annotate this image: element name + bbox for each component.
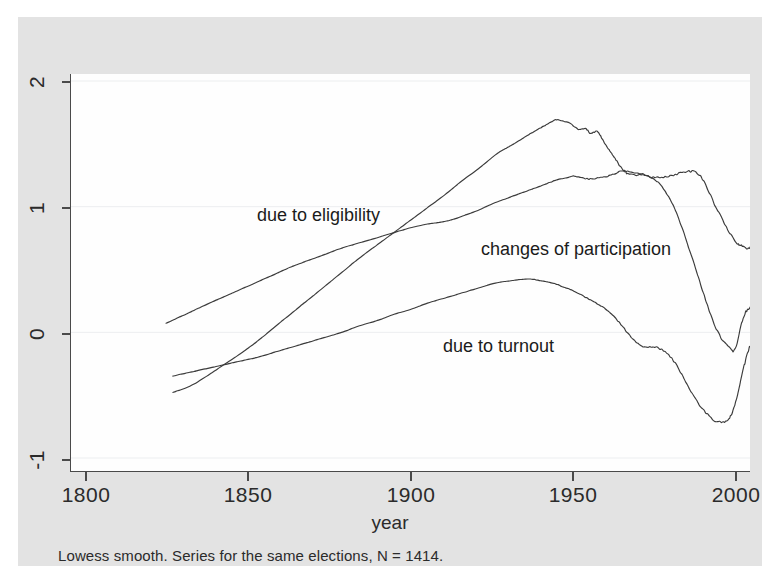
x-tick-label-2000: 2000	[696, 483, 776, 507]
x-tickmark-1900	[410, 472, 412, 481]
x-tickmark-1850	[247, 472, 249, 481]
series-label-turnout: due to turnout	[443, 336, 554, 357]
x-tickmark-1950	[572, 472, 574, 481]
curve-changes-of-participation	[166, 170, 750, 352]
x-tick-label-1850: 1850	[208, 483, 288, 507]
series-label-participation: changes of participation	[481, 239, 671, 260]
gridlines	[71, 81, 750, 458]
figure-canvas: 2 1 0 -1 due to eligibility changes of p…	[18, 17, 762, 566]
x-tickmark-1800	[85, 472, 87, 481]
figure-note: Lowess smooth. Series for the same elect…	[58, 547, 443, 564]
plot-area: due to eligibility changes of participat…	[70, 74, 750, 472]
chart-svg	[71, 74, 750, 471]
y-tick-label-1: 1	[25, 193, 49, 223]
y-tick-label-minus1: -1	[25, 445, 49, 475]
x-tick-label-1900: 1900	[371, 483, 451, 507]
series-label-eligibility: due to eligibility	[257, 205, 380, 226]
y-tick-label-0: 0	[25, 319, 49, 349]
data-curves	[166, 120, 750, 423]
x-tick-label-1950: 1950	[533, 483, 613, 507]
x-tickmark-2000	[735, 472, 737, 481]
x-axis-title: year	[18, 512, 762, 534]
y-tick-label-2: 2	[25, 67, 49, 97]
x-tick-label-1800: 1800	[46, 483, 126, 507]
